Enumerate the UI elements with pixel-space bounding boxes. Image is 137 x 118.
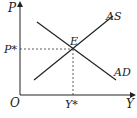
price-label: P*: [3, 43, 17, 56]
equilibrium-label: E: [69, 35, 78, 48]
ad-label: AD: [113, 66, 131, 79]
as-curve: [34, 16, 113, 80]
y-axis-label: P: [7, 1, 17, 15]
ad-curve: [37, 22, 116, 80]
output-label: Y*: [65, 98, 78, 111]
ad-as-diagram: P Y O AS AD E P* Y*: [0, 0, 137, 118]
as-label: AS: [105, 10, 122, 23]
origin-label: O: [10, 96, 20, 110]
x-axis-label: Y: [126, 97, 135, 111]
